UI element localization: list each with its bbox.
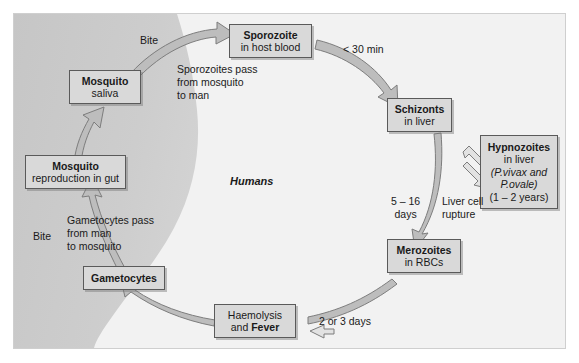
- edge-label-bite-bottom: Bite: [33, 230, 51, 243]
- edge-label-liver-cell-rupture: Liver cell rupture: [442, 195, 483, 221]
- haemolysis-and-word: and: [231, 321, 251, 333]
- region-label-humans: Humans: [230, 175, 273, 188]
- node-gametocytes-line-0: Gametocytes: [91, 272, 157, 285]
- node-mosquito-saliva[interactable]: Mosquito saliva: [69, 70, 141, 104]
- node-hypnozoites-line-4: (1 – 2 years): [490, 191, 549, 204]
- edge-label-under-30-min: < 30 min: [343, 43, 384, 56]
- node-merozoites-line-1: in RBCs: [405, 256, 444, 269]
- arrow-schizonts-to-merozoites: [412, 133, 442, 250]
- node-schizonts-line-0: Schizonts: [395, 103, 445, 116]
- edge-label-gametocytes-pass: Gametocytes pass from man to mosquito: [67, 214, 154, 253]
- node-mosquito-reproduction[interactable]: Mosquito reproduction in gut: [25, 155, 126, 189]
- edge-label-sporozoites-pass: Sporozoites pass from mosquito to man: [177, 63, 258, 102]
- edge-label-five-to-16-days: 5 – 16 days: [391, 195, 420, 221]
- node-haemolysis-fever-line-0: Haemolysis: [228, 309, 282, 322]
- node-mosquito-saliva-line-0: Mosquito: [82, 75, 129, 88]
- node-sporozoite[interactable]: Sporozoite in host blood: [229, 24, 312, 58]
- diagram-frame: Sporozoite in host blood Mosquito saliva…: [13, 13, 566, 349]
- diagram-canvas: Sporozoite in host blood Mosquito saliva…: [0, 0, 579, 363]
- node-gametocytes[interactable]: Gametocytes: [83, 266, 165, 290]
- node-mosquito-reproduction-line-1: reproduction in gut: [32, 172, 119, 185]
- node-mosquito-reproduction-line-0: Mosquito: [52, 160, 99, 173]
- node-schizonts-line-1: in liver: [404, 115, 434, 128]
- node-schizonts[interactable]: Schizonts in liver: [387, 98, 452, 132]
- node-haemolysis-fever-line-1: and Fever: [231, 321, 279, 334]
- fever-word: Fever: [251, 321, 279, 333]
- node-sporozoite-line-1: in host blood: [241, 41, 301, 54]
- edge-label-two-or-three-days: 2 or 3 days: [319, 315, 371, 328]
- node-hypnozoites-line-0: Hypnozoites: [488, 141, 550, 154]
- node-merozoites-line-0: Merozoites: [397, 244, 452, 257]
- node-hypnozoites[interactable]: Hypnozoites in liver (P.vivax and P.oval…: [480, 135, 558, 209]
- node-hypnozoites-line-3: P.ovale): [500, 178, 537, 191]
- node-hypnozoites-line-2: (P.vivax and: [491, 166, 547, 179]
- node-haemolysis-fever[interactable]: Haemolysis and Fever: [214, 304, 296, 338]
- node-mosquito-saliva-line-1: saliva: [92, 87, 119, 100]
- node-merozoites[interactable]: Merozoites in RBCs: [387, 239, 461, 273]
- node-hypnozoites-line-1: in liver: [504, 153, 534, 166]
- edge-label-bite-top: Bite: [140, 34, 158, 47]
- node-sporozoite-line-0: Sporozoite: [243, 29, 297, 42]
